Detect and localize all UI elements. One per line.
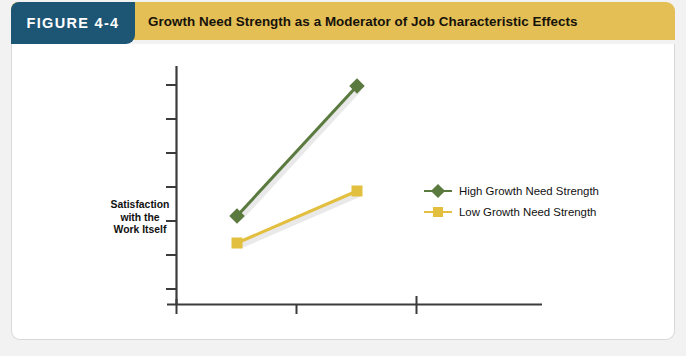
legend-label-high-growth-need-strength: High Growth Need Strength — [459, 185, 599, 197]
chart-panel: Satisfaction with the Work Itself Low Hi… — [11, 44, 675, 340]
figure-title: Growth Need Strength as a Moderator of J… — [148, 2, 578, 40]
figure-container: FIGURE 4-4 Growth Need Strength as a Mod… — [0, 0, 686, 356]
y-axis-title: Satisfaction with the Work Itself — [100, 199, 180, 237]
data-point-marker — [232, 238, 243, 249]
legend-item-low-growth-need-strength: Low Growth Need Strength — [424, 201, 599, 222]
y-axis-title-line-1: Satisfaction — [100, 199, 180, 212]
y-axis-ticks — [166, 85, 177, 289]
data-point-marker — [352, 186, 363, 197]
figure-number-badge: FIGURE 4-4 — [11, 2, 135, 44]
legend-item-high-growth-need-strength: High Growth Need Strength — [424, 180, 599, 201]
figure-number-label: FIGURE 4-4 — [27, 15, 120, 31]
chart-legend: High Growth Need Strength Low Growth Nee… — [424, 180, 599, 222]
legend-marker-square-icon — [424, 205, 452, 219]
legend-label-low-growth-need-strength: Low Growth Need Strength — [459, 206, 596, 218]
y-axis-title-line-3: Work Itself — [100, 224, 180, 237]
y-axis-title-line-2: with the — [100, 212, 180, 225]
legend-marker-diamond-icon — [424, 184, 452, 198]
